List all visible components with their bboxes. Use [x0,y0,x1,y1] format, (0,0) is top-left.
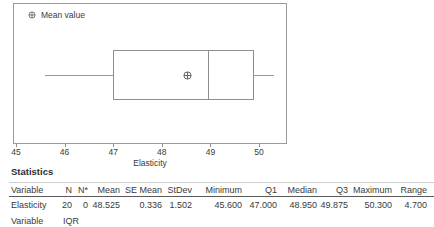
stats-table-data-row: Elasticity 20 0 48.525 0.336 1.502 45.60… [11,199,427,211]
cell-n-missing: 0 [72,199,88,211]
continuation-variable-header: Variable [11,216,43,226]
cell-mean: 48.525 [88,199,120,211]
col-header-q1: Q1 [242,184,277,196]
x-tick-label: 46 [60,147,69,157]
x-tick-label: 45 [11,147,20,157]
minitab-output: Mean value 454647484950 Elasticity Stati… [0,0,434,227]
col-header-se-mean: SE Mean [120,184,162,196]
col-header-q3: Q3 [317,184,348,196]
stats-table-continuation-header: Variable IQR [11,215,43,227]
x-tick-label: 48 [157,147,166,157]
cell-median: 48.950 [277,199,317,211]
boxplot-mean-marker [183,71,192,80]
boxplot-left-whisker [45,75,113,76]
stats-table-header-row: Variable N N* Mean SE Mean StDev Minimum… [11,184,427,196]
col-header-stdev: StDev [162,184,192,196]
col-header-maximum: Maximum [348,184,392,196]
col-header-minimum: Minimum [192,184,242,196]
col-header-range: Range [392,184,427,196]
x-axis-label: Elasticity [13,158,287,168]
mean-symbol-icon [28,11,36,19]
cell-se-mean: 0.336 [120,199,162,211]
cell-stdev: 1.502 [162,199,192,211]
table-top-rule [9,182,434,183]
boxplot-median-line [208,50,209,100]
col-header-n: N [61,184,72,196]
col-header-mean: Mean [88,184,120,196]
table-header-rule [9,196,434,197]
legend-label: Mean value [41,10,85,20]
cell-variable: Elasticity [11,199,61,211]
x-tick-label: 49 [206,147,215,157]
col-header-median: Median [277,184,317,196]
col-header-variable: Variable [11,184,61,196]
statistics-heading: Statistics [11,166,53,177]
cell-minimum: 45.600 [192,199,242,211]
continuation-iqr-header: IQR [63,215,79,227]
x-tick-label: 47 [108,147,117,157]
cell-q3: 49.875 [317,199,348,211]
cell-n: 20 [61,199,72,211]
cell-q1: 47.000 [242,199,277,211]
boxplot-panel: Mean value [13,3,287,144]
cell-maximum: 50.300 [348,199,392,211]
legend: Mean value [28,10,85,20]
col-header-n-missing: N* [72,184,88,196]
x-tick-label: 50 [254,147,263,157]
boxplot-right-whisker [253,75,274,76]
cell-range: 4.700 [392,199,427,211]
